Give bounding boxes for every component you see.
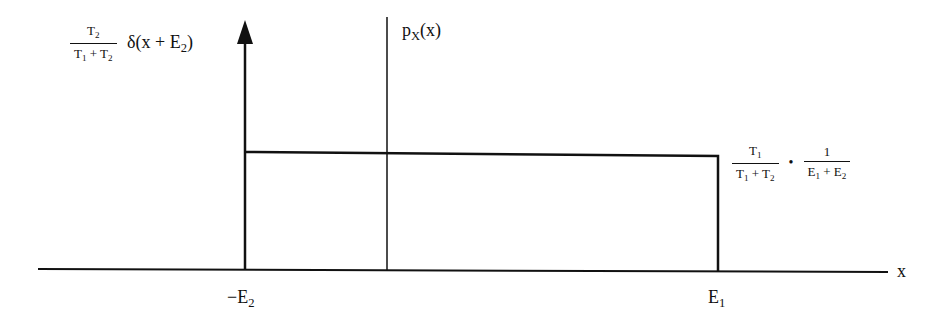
x-axis-label: x — [897, 262, 906, 280]
x-axis — [38, 269, 888, 272]
delta-label: T2 T1 + T2 δ(x + E2) — [70, 24, 193, 63]
sub: 2 — [95, 30, 100, 40]
density-level-label: T1 T1 + T2 • 1 E1 + E2 — [732, 144, 850, 183]
sub: 2 — [108, 53, 113, 63]
delta-weight-fraction: T2 T1 + T2 — [70, 24, 117, 63]
delta-arrow-head — [237, 20, 253, 44]
tick-label-e1: E1 — [708, 288, 725, 309]
multiply-dot: • — [789, 156, 794, 170]
delta-expression: δ(x + E2) — [127, 32, 193, 52]
t2-num: T — [87, 23, 95, 38]
pdf-label: pX(x) — [402, 21, 441, 42]
weight-fraction: T1 T1 + T2 — [732, 144, 779, 183]
plus: + — [87, 46, 101, 61]
t1: T — [74, 46, 82, 61]
t2: T — [100, 46, 108, 61]
width-fraction: 1 E1 + E2 — [804, 145, 851, 181]
uniform-density-rect — [245, 152, 718, 271]
tick-label-neg-e2: −E2 — [227, 288, 254, 309]
